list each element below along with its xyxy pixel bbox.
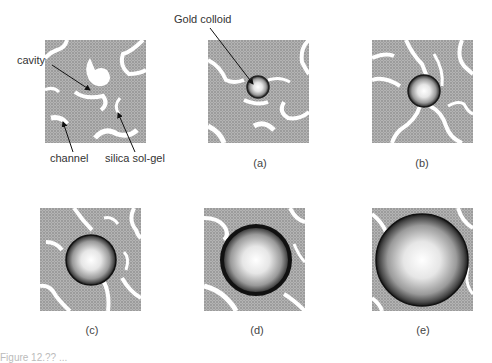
- subfigure-label-e: (e): [403, 324, 443, 336]
- panel-b: [372, 40, 473, 143]
- panel-a: [208, 40, 309, 143]
- subfigure-label-b: (b): [402, 157, 442, 169]
- gold-particle-b: [408, 75, 440, 107]
- panel-initial: [45, 40, 146, 143]
- gold-particle-a: [247, 76, 269, 98]
- channel-label: channel: [50, 152, 89, 164]
- gold-particle-e: [376, 214, 468, 306]
- panel-e: [372, 208, 473, 311]
- gold-particle-c: [66, 235, 116, 285]
- subfigure-label-c: (c): [72, 324, 112, 336]
- cavity-label: cavity: [17, 54, 45, 66]
- panel-c: [40, 208, 141, 311]
- silica-gel-matrix: [45, 40, 146, 143]
- figure-caption: Figure 12.?? ...: [0, 352, 67, 363]
- gold-colloid-label: Gold colloid: [174, 13, 231, 25]
- panel-d: [204, 208, 305, 311]
- subfigure-label-d: (d): [237, 324, 277, 336]
- gold-particle-d: [222, 226, 290, 294]
- silica-sol-gel-label: silica sol-gel: [105, 152, 165, 164]
- subfigure-label-a: (a): [240, 157, 280, 169]
